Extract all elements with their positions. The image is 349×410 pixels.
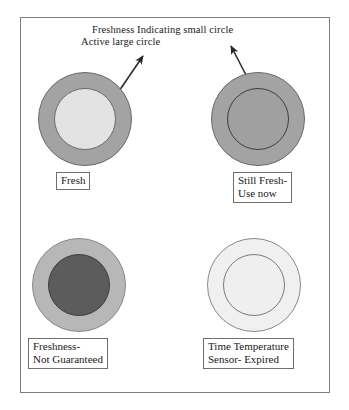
sensor-graphic-expired xyxy=(207,238,301,332)
freshness-small-circle-fresh xyxy=(54,88,116,150)
caption-line: Freshness- xyxy=(33,340,103,353)
sensor-cell-fresh: Fresh xyxy=(32,72,172,166)
sensor-cell-expired: Time Temperature Sensor- Expired xyxy=(203,238,343,332)
caption-expired: Time Temperature Sensor- Expired xyxy=(203,338,294,369)
sensor-graphic-still-fresh xyxy=(211,72,305,166)
annotation-line-active-large-circle: Active large circle xyxy=(60,36,310,48)
annotation-line-freshness-small-circle: Freshness Indicating small circle xyxy=(60,24,310,36)
caption-line: Time Temperature xyxy=(208,340,289,353)
caption-line: Sensor- Expired xyxy=(208,353,289,366)
caption-line: Use now xyxy=(238,187,287,200)
sensor-cell-still-fresh: Still Fresh- Use now xyxy=(205,72,345,166)
freshness-small-circle-expired xyxy=(223,254,285,316)
caption-fresh: Fresh xyxy=(56,172,90,190)
annotation-caption: Freshness Indicating small circle Active… xyxy=(60,24,310,48)
caption-not-guaranteed: Freshness- Not Guaranteed xyxy=(28,338,108,369)
caption-line: Fresh xyxy=(61,174,85,187)
caption-line: Still Fresh- xyxy=(238,174,287,187)
sensor-graphic-fresh xyxy=(38,72,132,166)
freshness-small-circle-still-fresh xyxy=(227,88,289,150)
sensor-cell-not-guaranteed: Freshness- Not Guaranteed xyxy=(28,238,168,332)
caption-still-fresh: Still Fresh- Use now xyxy=(233,172,292,203)
figure-root: Freshness Indicating small circle Active… xyxy=(0,0,349,410)
caption-line: Not Guaranteed xyxy=(33,353,103,366)
freshness-small-circle-not-guaranteed xyxy=(48,254,110,316)
sensor-graphic-not-guaranteed xyxy=(32,238,126,332)
